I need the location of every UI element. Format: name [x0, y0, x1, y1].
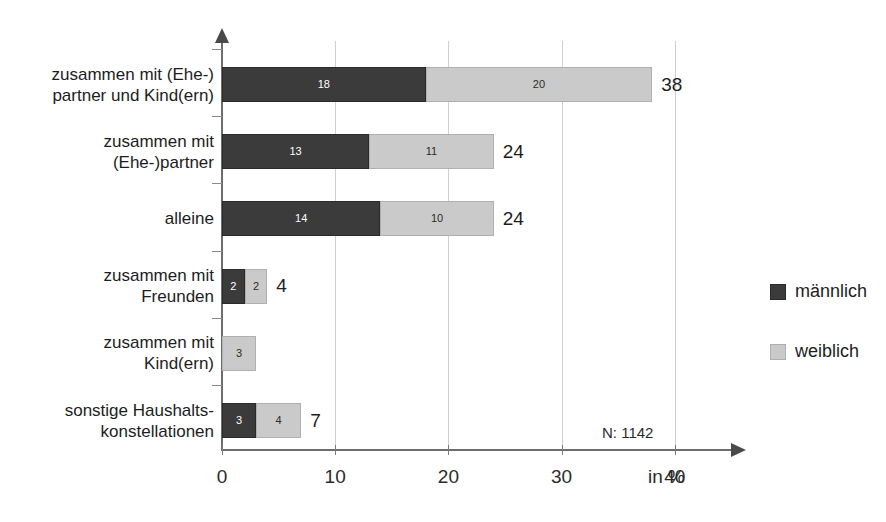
bar-segment-female-2: 10	[380, 201, 493, 236]
bar-row-5: 347	[0, 403, 886, 438]
legend-item-weiblich[interactable]: weiblich	[770, 341, 859, 362]
legend-swatch-icon-1	[770, 344, 786, 360]
x-tick-20	[448, 445, 449, 455]
x-tick-30	[562, 445, 563, 455]
bar-segment-female-1: 11	[369, 134, 494, 169]
bar-value-female-0: 20	[533, 79, 545, 90]
bar-total-label-5: 7	[310, 410, 321, 432]
bar-total-label-2: 24	[503, 208, 524, 230]
x-axis-unit-label: in %	[648, 466, 685, 488]
x-axis-line	[221, 449, 733, 451]
bar-row-1: 131124	[0, 134, 886, 169]
bar-total-label-1: 24	[503, 141, 524, 163]
bar-value-female-4: 3	[236, 348, 242, 359]
y-tick-3	[212, 251, 222, 252]
legend-swatch-icon-0	[770, 284, 786, 300]
bar-row-4: 3	[0, 336, 886, 371]
bar-segment-male-1: 13	[222, 134, 369, 169]
y-tick-4	[212, 318, 222, 319]
bar-value-male-0: 18	[318, 79, 330, 90]
x-tick-label-10: 10	[325, 466, 346, 488]
gridline-20	[448, 41, 449, 450]
x-tick-40	[675, 445, 676, 455]
chart-canvas: 010203040 in % N: 1142 zusammen mit (Ehe…	[0, 0, 886, 522]
bar-value-female-1: 11	[426, 146, 437, 157]
bar-segment-male-0: 18	[222, 67, 426, 102]
legend-label-1: weiblich	[795, 341, 859, 362]
bar-segment-female-3: 2	[245, 269, 268, 304]
bar-value-female-2: 10	[431, 213, 443, 224]
x-tick-label-20: 20	[438, 466, 459, 488]
gridline-40	[675, 41, 676, 450]
bar-value-male-3: 2	[230, 281, 236, 292]
bar-row-2: 141024	[0, 201, 886, 236]
legend-label-0: männlich	[795, 281, 867, 302]
bar-value-male-5: 3	[236, 415, 242, 426]
legend-item-maennlich[interactable]: männlich	[770, 281, 867, 302]
bar-row-3: 224	[0, 269, 886, 304]
y-axis-arrow-icon	[215, 28, 229, 43]
y-tick-1	[212, 116, 222, 117]
bar-segment-male-3: 2	[222, 269, 245, 304]
bar-value-male-2: 14	[295, 213, 307, 224]
bar-row-0: 182038	[0, 67, 886, 102]
bar-segment-male-2: 14	[222, 201, 380, 236]
x-tick-label-30: 30	[551, 466, 572, 488]
bar-value-female-5: 4	[276, 415, 282, 426]
bar-value-female-3: 2	[253, 281, 259, 292]
x-axis-arrow-icon	[731, 443, 746, 457]
bar-total-label-3: 4	[276, 275, 287, 297]
bar-segment-male-5: 3	[222, 403, 256, 438]
x-tick-0	[222, 445, 223, 455]
bar-segment-female-4: 3	[222, 336, 256, 371]
gridline-10	[335, 41, 336, 450]
bar-segment-female-5: 4	[256, 403, 301, 438]
x-tick-label-0: 0	[217, 466, 228, 488]
bar-total-label-0: 38	[661, 74, 682, 96]
bar-segment-female-0: 20	[426, 67, 652, 102]
y-tick-5	[212, 385, 222, 386]
bar-value-male-1: 13	[289, 146, 301, 157]
x-tick-10	[335, 445, 336, 455]
y-tick-0	[212, 49, 222, 50]
y-tick-2	[212, 183, 222, 184]
gridline-30	[562, 41, 563, 450]
